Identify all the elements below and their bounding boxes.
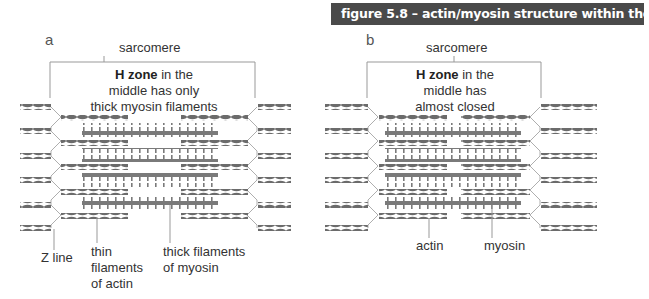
- thin-filaments-label: thin filaments of actin: [91, 244, 143, 292]
- thick-filaments-label: thick filaments of myosin: [163, 244, 245, 276]
- h-zone-bold-a: H zone: [115, 67, 158, 82]
- h-zone-caption-b: H zone in the middle has almost closed: [400, 67, 510, 115]
- h-zone-caption-a: H zone in the middle has only thick myos…: [84, 67, 224, 115]
- h-zone-bold-b: H zone: [416, 67, 459, 82]
- myosin-label: myosin: [484, 238, 525, 254]
- sarcomere-label-a: sarcomere: [119, 40, 180, 56]
- panel-b-letter: b: [366, 32, 374, 48]
- panel-a-letter: a: [45, 32, 53, 48]
- actin-label: actin: [416, 238, 443, 254]
- sarcomere-label-b: sarcomere: [426, 40, 487, 56]
- z-line-label: Z line: [41, 250, 73, 266]
